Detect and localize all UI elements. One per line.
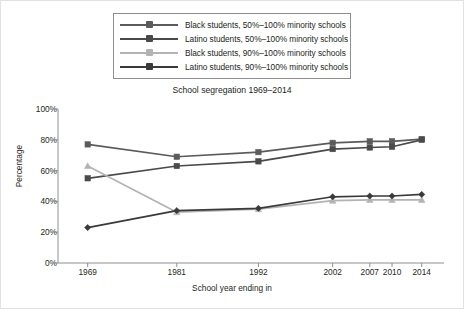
series-4 [85,191,425,230]
data-point-marker [419,137,424,142]
series-3 [84,163,424,215]
data-point-marker [85,224,91,230]
data-point-marker [367,139,372,144]
data-point-marker [256,149,261,154]
data-point-marker [367,145,372,150]
data-point-marker [174,154,179,159]
data-point-marker [419,191,425,197]
series-line [88,166,422,212]
series-2 [85,137,424,181]
plot-area [1,1,464,309]
data-point-marker [256,159,261,164]
data-point-marker [367,193,373,199]
data-point-marker [85,176,90,181]
data-point-marker [330,140,335,145]
figure-container: Black students, 50%–100% minority school… [0,0,464,309]
data-point-marker [174,163,179,168]
data-point-marker [389,139,394,144]
data-point-marker [389,193,395,199]
data-point-marker [330,146,335,151]
data-point-marker [330,194,336,200]
data-point-marker [389,144,394,149]
data-point-marker [84,163,90,169]
data-point-marker [85,142,90,147]
